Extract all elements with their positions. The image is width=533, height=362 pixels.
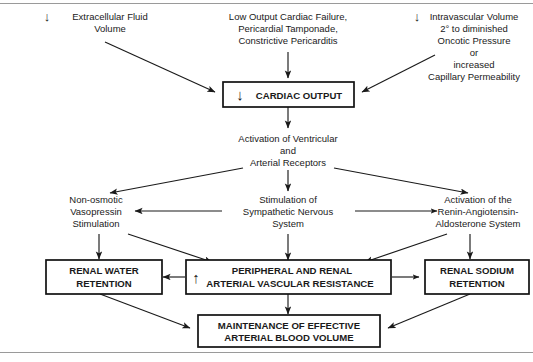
- node-arterial-vascular-resistance-box: ↑ PERIPHERAL AND RENAL ARTERIAL VASCULAR…: [186, 260, 391, 294]
- vascular-resistance-line-2: ARTERIAL VASCULAR RESISTANCE: [206, 278, 374, 289]
- extracellular-fluid-line-2: Volume: [94, 23, 126, 34]
- node-renal-water-retention-box: RENAL WATER RETENTION: [46, 260, 162, 294]
- renal-sodium-line-1: RENAL SODIUM: [440, 265, 514, 276]
- raas-line-3: Aldosterone System: [435, 218, 520, 229]
- connector-raas-to-vascular-resistance: [365, 234, 447, 262]
- intravascular-line-3: Oncotic Pressure: [438, 35, 511, 46]
- down-arrow-icon: ↓: [236, 86, 244, 103]
- node-sympathetic-nervous-system-stimulation: Stimulation of Sympathetic Nervous Syste…: [243, 194, 334, 229]
- connector-ecf-to-cardiac-output: [105, 42, 215, 92]
- low-output-line-2: Pericardial Tamponade,: [238, 23, 338, 34]
- low-output-line-1: Low Output Cardiac Failure,: [229, 11, 347, 22]
- renal-water-line-1: RENAL WATER: [69, 265, 139, 276]
- node-extracellular-fluid-volume: ↓ Extracellular Fluid Volume: [44, 9, 148, 34]
- connector-receptors-to-vasopressin: [110, 168, 243, 193]
- receptors-line-3: Arterial Receptors: [250, 157, 326, 168]
- maintenance-line-2: ARTERIAL BLOOD VOLUME: [224, 332, 354, 343]
- low-output-line-3: Constrictive Pericarditis: [238, 35, 337, 46]
- receptors-line-2: and: [280, 145, 296, 156]
- raas-line-1: Activation of the: [444, 194, 512, 205]
- receptors-line-1: Activation of Ventricular: [238, 133, 337, 144]
- intravascular-line-6: Capillary Permeability: [428, 71, 520, 82]
- intravascular-line-5: increased: [453, 59, 494, 70]
- vasopressin-line-2: Vasopressin: [70, 206, 122, 217]
- down-arrow-icon: ↓: [414, 9, 421, 24]
- intravascular-line-4: or: [470, 47, 478, 58]
- flowchart-canvas: ↓ Extracellular Fluid Volume Low Output …: [0, 0, 533, 362]
- connector-intravascular-to-cardiac-output: [362, 55, 435, 92]
- node-non-osmotic-vasopressin-stimulation: Non-osmotic Vasopressin Stimulation: [69, 194, 123, 229]
- up-arrow-icon: ↑: [192, 269, 200, 286]
- vasopressin-line-1: Non-osmotic: [69, 194, 123, 205]
- node-intravascular-volume: ↓ Intravascular Volume 2° to diminished …: [414, 9, 520, 82]
- connector-renal-sodium-to-maintenance: [388, 294, 470, 328]
- down-arrow-icon: ↓: [44, 9, 51, 24]
- raas-line-2: Renin-Angiotensin-: [438, 206, 519, 217]
- renal-sodium-line-2: RETENTION: [449, 278, 505, 289]
- sympathetic-line-2: Sympathetic Nervous: [243, 206, 334, 217]
- sympathetic-line-1: Stimulation of: [259, 194, 317, 205]
- connector-vasopressin-to-vascular-resistance: [128, 234, 212, 262]
- renal-water-line-2: RETENTION: [76, 278, 132, 289]
- node-cardiac-output-box: ↓ CARDIAC OUTPUT: [223, 82, 354, 107]
- node-low-output-cardiac-failure: Low Output Cardiac Failure, Pericardial …: [229, 11, 347, 46]
- vasopressin-line-3: Stimulation: [73, 218, 120, 229]
- node-renin-angiotensin-aldosterone-activation: Activation of the Renin-Angiotensin- Ald…: [435, 194, 520, 229]
- sympathetic-line-3: System: [272, 218, 304, 229]
- connector-receptors-to-raas: [334, 168, 468, 193]
- extracellular-fluid-line-1: Extracellular Fluid: [72, 11, 148, 22]
- connector-renal-water-to-maintenance: [100, 294, 190, 328]
- intravascular-line-2: 2° to diminished: [440, 23, 508, 34]
- node-maintenance-effective-arterial-blood-volume-box: MAINTENANCE OF EFFECTIVE ARTERIAL BLOOD …: [198, 315, 380, 347]
- flowchart-figure: ↓ Extracellular Fluid Volume Low Output …: [0, 0, 533, 362]
- node-activation-of-receptors: Activation of Ventricular and Arterial R…: [238, 133, 337, 168]
- intravascular-line-1: Intravascular Volume: [430, 11, 519, 22]
- vascular-resistance-line-1: PERIPHERAL AND RENAL: [232, 265, 353, 276]
- maintenance-line-1: MAINTENANCE OF EFFECTIVE: [218, 320, 361, 331]
- cardiac-output-label: CARDIAC OUTPUT: [256, 90, 342, 101]
- node-renal-sodium-retention-box: RENAL SODIUM RETENTION: [425, 260, 529, 294]
